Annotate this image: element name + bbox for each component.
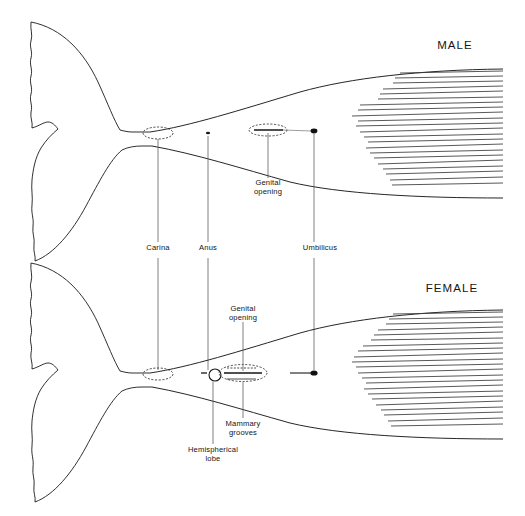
male-hatching [352, 71, 503, 185]
female-tail-peduncle-lower [122, 387, 152, 391]
male-panel [30, 22, 503, 261]
female-tail-fluke-upper-trailing [30, 263, 58, 370]
male-anus-marker [206, 132, 210, 134]
female-tail-peduncle-upper [120, 371, 150, 373]
female-panel [30, 263, 503, 502]
female-umbilicus-marker [310, 370, 317, 375]
male-tail-fluke-lower-trailing [35, 150, 122, 261]
male-tail-peduncle-upper [120, 130, 150, 132]
male-umbilicus-marker [311, 129, 318, 134]
male-tail-fluke-upper-trailing [30, 22, 58, 129]
male-tail-fluke-lower [32, 129, 58, 261]
cetacean-anatomy-figure [0, 0, 525, 516]
female-tail-fluke-lower-trailing [35, 391, 122, 502]
shared-leader-lines [158, 258, 314, 370]
female-tail-fluke-lower [32, 370, 58, 502]
male-body-outline-upper [150, 69, 503, 132]
male-carina-marker [143, 127, 173, 139]
female-body-outline-upper [150, 310, 503, 373]
female-hatching [352, 312, 503, 426]
male-tail-fluke-upper [31, 22, 120, 130]
male-tail-peduncle-lower [122, 146, 152, 150]
female-tail-fluke-upper [31, 263, 120, 371]
